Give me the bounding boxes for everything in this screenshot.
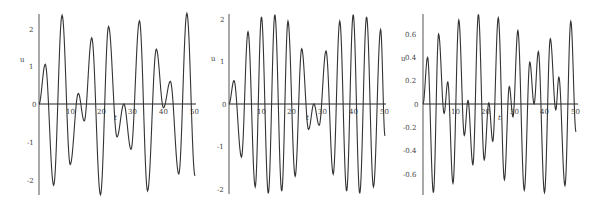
x-axis-label: t [498,114,501,122]
y-tick-label: -2 [217,186,224,194]
y-tick-label: -0.4 [403,147,417,155]
y-tick-label: 0 [32,101,36,109]
x-tick-label: 50 [571,108,580,116]
y-tick-label: 1 [29,63,33,71]
y-tick-label: -0.2 [403,124,417,132]
y-tick-label: -1 [217,143,224,151]
data-curve [423,14,576,192]
y-tick-label: 2 [29,26,33,34]
y-axis-label: u [211,55,216,63]
y-tick-label: -0.6 [403,171,417,179]
y-tick-label: 1 [220,58,224,66]
x-tick-label: 50 [380,108,389,116]
y-tick-label: 0.6 [405,31,417,39]
y-tick-label: 0.2 [405,77,416,85]
x-tick-label: 30 [128,108,137,116]
y-tick-label: 0 [222,101,226,109]
plot-panel-2: u t 2 1 0 -1 -2 10 20 30 40 50 [211,14,389,194]
figure-canvas: u t 2 1 0 -1 -2 10 20 30 40 50 u t 2 1 0… [0,0,596,203]
plot-panel-3: u t 0.6 0.4 0.2 0 -0.2 -0.4 -0.6 10 20 3… [401,14,580,195]
y-tick-label: 0 [414,101,418,109]
x-tick-label: 40 [159,108,168,116]
y-tick-label: 0.4 [405,54,417,62]
x-tick-label: 30 [318,108,327,116]
figure: u t 2 1 0 -1 -2 10 20 30 40 50 u t 2 1 0… [0,0,596,203]
y-tick-label: -2 [27,177,34,185]
plot-panel-1: u t 2 1 0 -1 -2 10 20 30 40 50 [20,13,199,195]
y-tick-label: 2 [220,16,224,24]
y-tick-label: -1 [27,139,34,147]
y-axis-label: u [20,56,25,64]
